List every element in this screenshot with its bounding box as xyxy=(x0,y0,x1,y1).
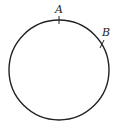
circle xyxy=(9,20,109,120)
point-a-label: A xyxy=(54,3,63,16)
circle-diagram: A B xyxy=(0,0,117,126)
point-b-label: B xyxy=(101,26,110,39)
